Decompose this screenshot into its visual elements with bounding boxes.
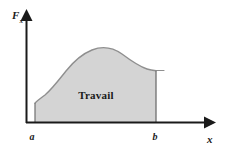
work-under-curve-figure: F x x a b Travail <box>0 0 226 153</box>
figure-canvas: F x x a b Travail <box>0 0 226 153</box>
work-area-shaded-region <box>35 48 156 122</box>
upper-bound-label: b <box>153 131 158 142</box>
x-axis-label: x <box>206 133 213 145</box>
work-region-label: Travail <box>78 89 113 101</box>
y-axis-label-subscript: x <box>19 17 24 25</box>
lower-bound-label: a <box>30 131 35 142</box>
x-axis-arrowhead <box>204 117 216 129</box>
